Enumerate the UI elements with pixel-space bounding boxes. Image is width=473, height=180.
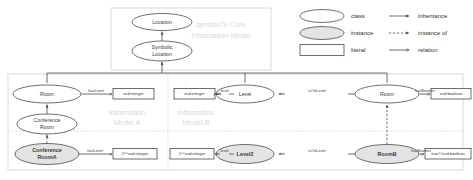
literal-true-xsd-boolean-label: true^^xsd:boolean (431, 151, 465, 156)
node-level-label: Level (239, 91, 251, 97)
panel-model-a-title-line2: Model A (114, 118, 141, 127)
edge-is-on-level-label: isOnLevel (308, 88, 325, 93)
panel-model-b-title-line1: Information (178, 108, 215, 117)
literal-one-xsd-integer-a-label: 1^^xsd:integer (122, 151, 149, 156)
node-level2-label: Level2 (237, 151, 254, 157)
panel-core-title-line2: Information Model (191, 31, 251, 40)
literal-xsd-integer-b-label: xsd:integer (184, 91, 205, 96)
node-conference-room-label-line2: Room (40, 124, 54, 130)
panel-model-a-title-line1: Information (109, 108, 146, 117)
node-conference-room-a-label-line1: Conference (32, 147, 62, 153)
edge-level-b-instance-label: level (220, 148, 228, 153)
legend-class-icon (300, 10, 344, 23)
literal-xsd-boolean-label: xsd:boolean (440, 91, 463, 96)
node-symbolic-location-label-line1: Symbolic (151, 44, 172, 50)
node-room-a-label: Room (40, 91, 54, 97)
edge-has-level-a-label: hasLevel (88, 88, 104, 93)
node-conference-room-a-label-line2: RoomA (37, 154, 56, 160)
edge-has-beamer-label: hasBeamer (415, 88, 436, 93)
literal-one-xsd-integer-b-label: 1^^xsd:integer (179, 151, 206, 156)
legend-class-label: class (351, 13, 365, 19)
edge-has-beamer-instance-label: hasBeamer (411, 148, 432, 153)
node-conference-room-label-line1: Conference (34, 117, 61, 123)
diagram-canvas: symbIoTe Core Information Model Informat… (0, 0, 473, 180)
node-roomb-instance-label: RoomB (377, 151, 396, 157)
legend-instance-label: instance (351, 30, 374, 36)
panel-model-b-title-line2: Model B (182, 118, 209, 127)
literal-xsd-integer-a-label: xsd:integer (123, 91, 144, 96)
legend-relation-label: relation (418, 47, 438, 53)
legend-literal-label: literal (351, 47, 365, 53)
legend-instance-icon (300, 27, 344, 40)
legend-literal-icon (300, 45, 344, 56)
edge-level-b-label: level (221, 88, 229, 93)
edge-has-level-a-instance-label: hasLevel (87, 148, 103, 153)
legend-instance-of-label: instance of (418, 30, 447, 36)
legend-inheritance-label: inheritance (418, 13, 448, 19)
node-room-b-label: Room (380, 91, 394, 97)
panel-core-title-line1: symbIoTe Core (196, 20, 246, 29)
node-symbolic-location-label-line2: Location (152, 51, 172, 57)
edge-is-on-level-instance-label: isOnLevel (308, 148, 325, 153)
node-location-label: Location (152, 19, 172, 25)
